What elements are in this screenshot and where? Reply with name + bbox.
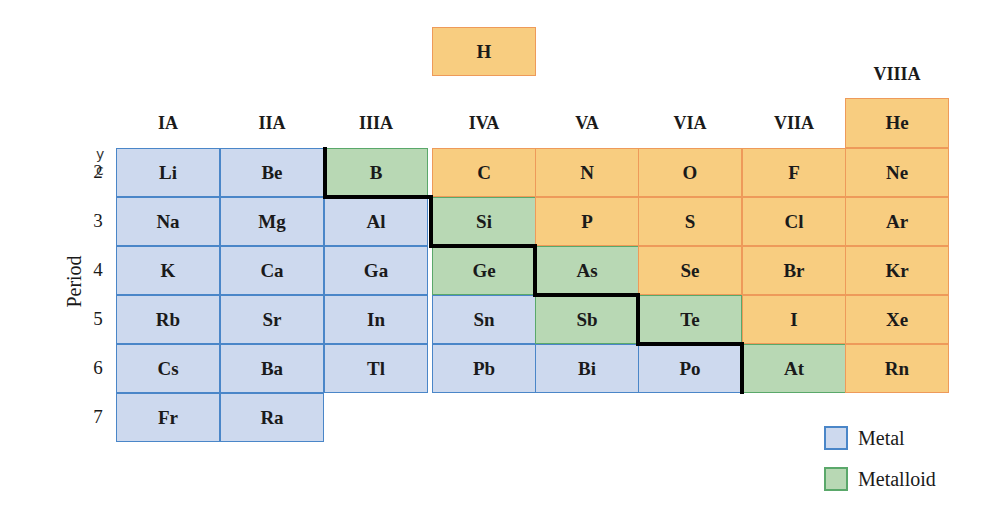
element-rn: Rn bbox=[845, 344, 949, 393]
group-header-ia: IA bbox=[116, 113, 220, 134]
legend-label: Metal bbox=[858, 427, 905, 450]
period-number: 5 bbox=[88, 308, 108, 330]
element-al: Al bbox=[324, 197, 428, 246]
element-he: He bbox=[845, 98, 949, 148]
element-po: Po bbox=[638, 344, 742, 393]
group-header-va: VA bbox=[535, 113, 639, 134]
period-axis-label: Period bbox=[63, 252, 86, 312]
period-number: 4 bbox=[88, 259, 108, 281]
legend-metal: Metal bbox=[824, 426, 905, 450]
period-number: 6 bbox=[88, 357, 108, 379]
element-ba: Ba bbox=[220, 344, 324, 393]
element-cl: Cl bbox=[742, 197, 846, 246]
element-te: Te bbox=[638, 295, 742, 344]
element-sn: Sn bbox=[432, 295, 536, 344]
element-na: Na bbox=[116, 197, 220, 246]
element-in: In bbox=[324, 295, 428, 344]
element-b: B bbox=[324, 148, 428, 197]
element-fr: Fr bbox=[116, 393, 220, 442]
cut-off-text-1: y bbox=[96, 146, 104, 162]
element-ga: Ga bbox=[324, 246, 428, 295]
element-p: P bbox=[535, 197, 639, 246]
element-li: Li bbox=[116, 148, 220, 197]
element-ar: Ar bbox=[845, 197, 949, 246]
group-header-iiia: IIIA bbox=[324, 113, 428, 134]
element-o: O bbox=[638, 148, 742, 197]
element-mg: Mg bbox=[220, 197, 324, 246]
element-tl: Tl bbox=[324, 344, 428, 393]
group-header-iva: IVA bbox=[432, 113, 536, 134]
element-ne: Ne bbox=[845, 148, 949, 197]
element-f: F bbox=[742, 148, 846, 197]
element-pb: Pb bbox=[432, 344, 536, 393]
legend-metalloid: Metalloid bbox=[824, 467, 936, 491]
element-rb: Rb bbox=[116, 295, 220, 344]
element-si: Si bbox=[432, 197, 536, 246]
metal-swatch bbox=[824, 426, 848, 450]
group-header-viiia: VIIIA bbox=[845, 64, 949, 85]
element-n: N bbox=[535, 148, 639, 197]
period-number: 7 bbox=[88, 406, 108, 428]
element-kr: Kr bbox=[845, 246, 949, 295]
element-h: H bbox=[432, 27, 536, 76]
element-cs: Cs bbox=[116, 344, 220, 393]
element-i: I bbox=[742, 295, 846, 344]
group-header-via: VIA bbox=[638, 113, 742, 134]
element-sr: Sr bbox=[220, 295, 324, 344]
element-bi: Bi bbox=[535, 344, 639, 393]
element-as: As bbox=[535, 246, 639, 295]
metalloid-swatch bbox=[824, 467, 848, 491]
period-number: 2 bbox=[88, 161, 108, 183]
element-s: S bbox=[638, 197, 742, 246]
group-header-viia: VIIA bbox=[742, 113, 846, 134]
element-xe: Xe bbox=[845, 295, 949, 344]
period-number: 3 bbox=[88, 210, 108, 232]
element-ge: Ge bbox=[432, 246, 536, 295]
element-se: Se bbox=[638, 246, 742, 295]
element-ca: Ca bbox=[220, 246, 324, 295]
element-ra: Ra bbox=[220, 393, 324, 442]
element-k: K bbox=[116, 246, 220, 295]
legend-label: Metalloid bbox=[858, 468, 936, 491]
element-at: At bbox=[742, 344, 846, 393]
group-header-iia: IIA bbox=[220, 113, 324, 134]
element-sb: Sb bbox=[535, 295, 639, 344]
element-br: Br bbox=[742, 246, 846, 295]
element-be: Be bbox=[220, 148, 324, 197]
element-c: C bbox=[432, 148, 536, 197]
